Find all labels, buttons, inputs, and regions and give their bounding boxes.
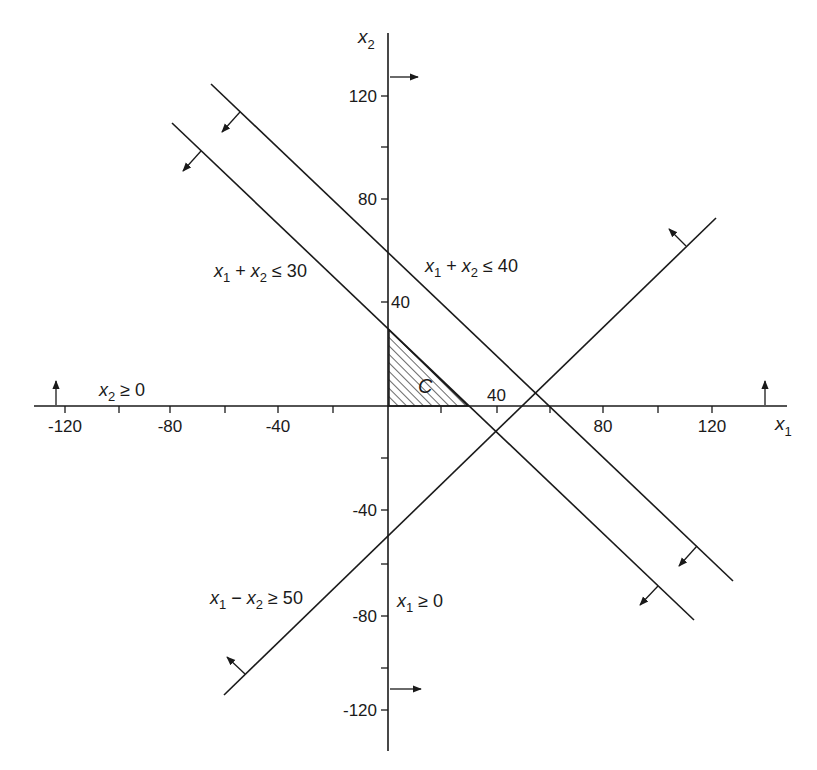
region-label: C — [418, 375, 433, 397]
constraint-label-c4: x1 ≥ 0 — [396, 591, 443, 615]
y-axis-label: x2 — [357, 26, 375, 52]
arrow-icon — [669, 229, 686, 246]
x-tick-label: -80 — [158, 417, 183, 436]
constraint-label-c2: x1 + x2 ≤ 40 — [424, 256, 518, 280]
y-tick-label: -120 — [343, 701, 377, 720]
y-tick-label: -80 — [352, 607, 377, 626]
x-tick-label: 40 — [487, 386, 506, 405]
constraint-label-c5: x2 ≥ 0 — [98, 380, 145, 404]
y-tick-label: 40 — [391, 293, 410, 312]
x-tick-label: -120 — [48, 417, 82, 436]
constraint-line-c2 — [211, 84, 733, 581]
arrow-icon — [227, 657, 245, 674]
constraint-label-c3: x1 − x2 ≥ 50 — [209, 588, 303, 612]
y-tick-label: 120 — [349, 87, 377, 106]
x-tick-label: 120 — [698, 417, 726, 436]
x-axis-label: x1 — [774, 413, 792, 439]
x-tick-label: 80 — [594, 417, 613, 436]
arrow-icon — [679, 546, 697, 566]
y-tick-label: -40 — [352, 501, 377, 520]
x-tick-label: -40 — [266, 417, 291, 436]
constraint-line-c3 — [224, 218, 716, 695]
y-tick-label: 80 — [358, 190, 377, 209]
arrow-icon — [222, 112, 240, 132]
arrow-icon — [183, 151, 201, 171]
constraint-label-c1: x1 + x2 ≤ 30 — [213, 261, 307, 285]
constraint-diagram: C -120-80-404080120 1208040-40-80-120 x2… — [0, 0, 817, 770]
constraint-line-c1 — [172, 123, 694, 620]
arrow-icon — [640, 586, 658, 605]
